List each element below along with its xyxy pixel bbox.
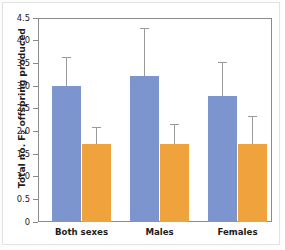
y-axis-tick-label: 2.0 bbox=[0, 127, 30, 135]
bar-orange-both-sexes bbox=[82, 144, 111, 222]
error-bar-cap bbox=[92, 127, 101, 128]
figure: Total no. F2 offspring produced 00.51.01… bbox=[0, 0, 284, 250]
error-bar-cap bbox=[62, 57, 71, 58]
error-bar-blue-males bbox=[130, 28, 159, 76]
error-bar-stem bbox=[222, 62, 223, 96]
error-bar-orange-females bbox=[238, 116, 267, 144]
error-bar-stem bbox=[96, 127, 97, 144]
x-axis-label-females: Females bbox=[188, 227, 285, 237]
error-bar-cap bbox=[248, 116, 257, 117]
error-bar-orange-both-sexes bbox=[82, 127, 111, 144]
error-bar-cap bbox=[218, 62, 227, 63]
bar-blue-females bbox=[208, 96, 237, 222]
error-bar-cap bbox=[140, 28, 149, 29]
y-axis-tick-label: 4.0 bbox=[0, 36, 30, 44]
y-axis-tick-label: 1.5 bbox=[0, 150, 30, 158]
bar-blue-males bbox=[130, 76, 159, 222]
plot-area bbox=[38, 18, 272, 222]
error-bar-stem bbox=[252, 116, 253, 144]
error-bar-orange-males bbox=[160, 124, 189, 145]
error-bar-stem bbox=[174, 124, 175, 145]
y-axis-tick-label: 3.0 bbox=[0, 82, 30, 90]
bar-orange-males bbox=[160, 144, 189, 222]
y-axis-tick-label: 0 bbox=[0, 218, 30, 226]
y-axis-tick-label: 2.5 bbox=[0, 104, 30, 112]
error-bar-blue-females bbox=[208, 62, 237, 96]
bar-orange-females bbox=[238, 144, 267, 222]
error-bar-blue-both-sexes bbox=[52, 57, 81, 86]
y-axis-tick-label: 0.5 bbox=[0, 195, 30, 203]
y-axis-tick-label: 3.5 bbox=[0, 59, 30, 67]
y-axis-tick-label: 4.5 bbox=[0, 14, 30, 22]
error-bar-stem bbox=[144, 28, 145, 76]
error-bar-stem bbox=[66, 57, 67, 86]
error-bar-cap bbox=[170, 124, 179, 125]
bar-blue-both-sexes bbox=[52, 86, 81, 222]
y-axis-tick-label: 1.0 bbox=[0, 172, 30, 180]
